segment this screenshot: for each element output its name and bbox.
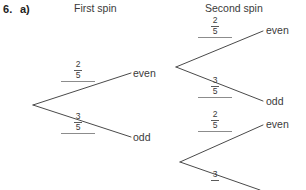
outcome-first-odd: odd xyxy=(133,131,151,143)
outcome-even-then-even: even xyxy=(266,24,289,36)
probability-odd-then-odd: 3 5 xyxy=(198,170,232,181)
fraction-bar xyxy=(211,180,219,181)
numerator: 2 xyxy=(198,110,232,119)
numerator: 2 xyxy=(198,16,232,25)
numerator: 2 xyxy=(61,60,95,69)
underline-rule xyxy=(198,97,232,98)
probability-first-odd: 3 5 xyxy=(61,112,95,134)
underline-rule xyxy=(198,37,232,38)
header-second-spin: Second spin xyxy=(205,2,263,14)
outcome-first-even: even xyxy=(133,67,156,79)
question-part: a) xyxy=(20,3,30,15)
numerator: 3 xyxy=(198,170,232,179)
underline-rule xyxy=(198,131,232,132)
numerator: 3 xyxy=(61,112,95,121)
probability-odd-then-even: 2 5 xyxy=(198,110,232,132)
tree-branches xyxy=(0,0,306,190)
denominator: 5 xyxy=(198,87,232,96)
header-first-spin: First spin xyxy=(74,2,117,14)
probability-even-then-even: 2 5 xyxy=(198,16,232,38)
underline-rule xyxy=(61,133,95,134)
probability-tree-diagram: 6. a) First spin Second spin 2 5 3 5 2 5… xyxy=(0,0,306,190)
denominator: 5 xyxy=(61,71,95,80)
outcome-odd-then-even: even xyxy=(266,118,289,130)
denominator: 5 xyxy=(198,27,232,36)
denominator: 5 xyxy=(61,123,95,132)
probability-first-even: 2 5 xyxy=(61,60,95,82)
probability-even-then-odd: 3 5 xyxy=(198,76,232,98)
question-number: 6. xyxy=(3,3,13,15)
underline-rule xyxy=(61,81,95,82)
numerator: 3 xyxy=(198,76,232,85)
outcome-even-then-odd: odd xyxy=(266,95,284,107)
denominator: 5 xyxy=(198,121,232,130)
